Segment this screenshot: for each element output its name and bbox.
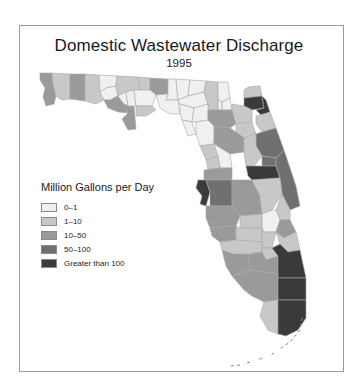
county-sarasota [210, 226, 236, 242]
legend-swatch [41, 217, 57, 226]
county-hillsborough [206, 180, 232, 206]
county-monroe-mainland [260, 300, 278, 334]
county-franklin [136, 106, 156, 116]
county-collier [232, 270, 278, 302]
legend-label: 1–10 [64, 217, 82, 226]
county-pasco [204, 168, 232, 180]
legend: Million Gallons per Day 0–1 1–10 10–50 5… [41, 181, 154, 270]
legend-item: 10–50 [41, 228, 154, 242]
legend-item: 0–1 [41, 200, 154, 214]
legend-item: 50–100 [41, 242, 154, 256]
legend-item: Greater than 100 [41, 256, 154, 270]
legend-label: Greater than 100 [64, 259, 124, 268]
county-orange [246, 166, 280, 180]
county-seminole [262, 156, 276, 166]
county-hardee [240, 214, 262, 228]
county-levy [196, 120, 214, 146]
county-okaloosa [70, 74, 85, 101]
county-wakulla [134, 90, 156, 106]
legend-swatch [41, 259, 57, 268]
legend-swatch [41, 231, 57, 240]
county-gadsden [138, 77, 150, 90]
legend-swatch [41, 245, 57, 254]
county-union [218, 100, 222, 110]
legend-label: 0–1 [64, 203, 77, 212]
county-broward [278, 278, 306, 300]
legend-swatch [41, 203, 57, 212]
legend-label: 10–50 [64, 231, 86, 240]
county-dixie [182, 120, 196, 136]
legend-title: Million Gallons per Day [41, 181, 154, 193]
county-manatee [206, 206, 240, 228]
legend-item: 1–10 [41, 214, 154, 228]
county-desoto [236, 226, 262, 242]
legend-label: 50–100 [64, 245, 91, 254]
